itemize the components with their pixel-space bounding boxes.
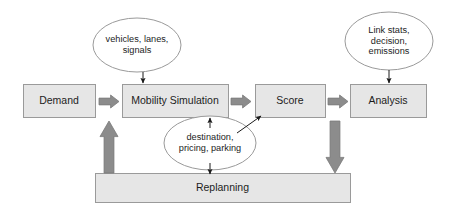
ellipse-analysis-outputs[interactable] — [345, 12, 433, 70]
box-score[interactable] — [256, 85, 326, 118]
block-arrow-analysis-to-replanning — [326, 121, 344, 173]
block-arrow-demand-to-mobility — [99, 95, 119, 108]
ellipse-simulation-inputs[interactable] — [93, 18, 181, 72]
box-replanning[interactable] — [96, 174, 351, 203]
box-mobility-simulation[interactable] — [123, 85, 229, 118]
block-arrow-replanning-to-demand — [100, 121, 118, 173]
box-demand[interactable] — [24, 85, 96, 118]
block-arrow-mobility-to-score — [231, 95, 251, 108]
block-arrow-score-to-analysis — [328, 95, 348, 108]
box-analysis[interactable] — [351, 85, 427, 118]
flow-diagram: DemandMobility SimulationScoreAnalysisRe… — [0, 0, 453, 213]
diagram-canvas — [0, 0, 453, 213]
